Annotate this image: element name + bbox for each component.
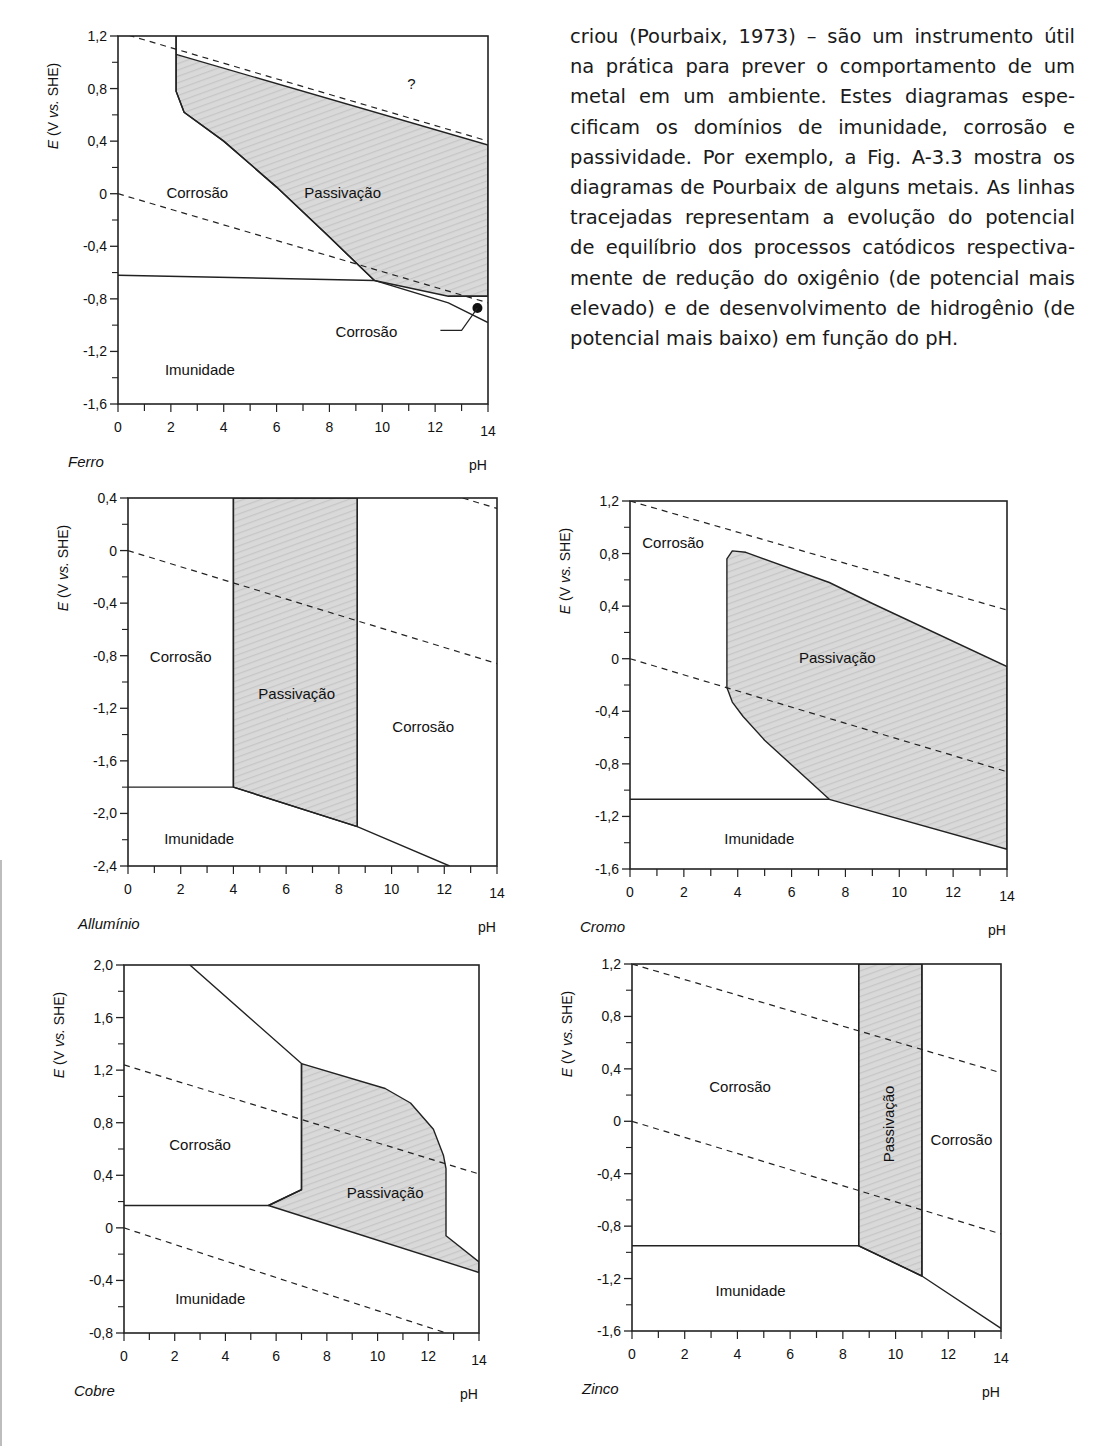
passivation-region bbox=[233, 498, 357, 827]
y-axis-title: E (V vs. SHE) bbox=[51, 992, 67, 1078]
y-tick-label: -1,6 bbox=[93, 753, 117, 769]
x-tick-label: 4 bbox=[230, 881, 238, 897]
y-axis-title: E (V vs. SHE) bbox=[557, 528, 573, 614]
metal-name-label: Allumínio bbox=[77, 915, 140, 932]
y-tick-label: 1,2 bbox=[602, 956, 622, 972]
x-tick-label: 10 bbox=[374, 419, 390, 435]
x-tick-label: 10 bbox=[370, 1348, 386, 1364]
boundary-line bbox=[632, 1246, 1001, 1329]
region-label: Corrosão bbox=[169, 1136, 231, 1153]
x-tick-label: 6 bbox=[282, 881, 290, 897]
x-tick-label: 0 bbox=[114, 419, 122, 435]
y-tick-label: -0,8 bbox=[93, 648, 117, 664]
x-tick-label: 12 bbox=[945, 884, 961, 900]
y-tick-label: 0,8 bbox=[600, 546, 620, 562]
region-label: Corrosão bbox=[931, 1131, 993, 1148]
region-label: Corrosão bbox=[709, 1078, 771, 1095]
y-tick-label: 0 bbox=[613, 1113, 621, 1129]
y-tick-label: 1,2 bbox=[600, 493, 620, 509]
y-tick-label: -0,4 bbox=[93, 595, 117, 611]
passivation-region bbox=[269, 1064, 480, 1273]
y-tick-label: -1,6 bbox=[83, 396, 107, 412]
y-tick-label: 0,4 bbox=[88, 133, 108, 149]
y-tick-label: -1,2 bbox=[93, 700, 117, 716]
y-tick-label: -0,8 bbox=[83, 291, 107, 307]
x-tick-label: 8 bbox=[335, 881, 343, 897]
x-tick-label: 12 bbox=[427, 419, 443, 435]
y-tick-label: 1,2 bbox=[88, 28, 108, 44]
x-tick-label: 2 bbox=[177, 881, 185, 897]
boundary-line bbox=[124, 965, 302, 1206]
y-axis-title: E (V vs. SHE) bbox=[55, 525, 71, 611]
region-label: Imunidade bbox=[175, 1290, 245, 1307]
y-tick-label: 0,4 bbox=[94, 1167, 114, 1183]
x-tick-label: 8 bbox=[842, 884, 850, 900]
y-tick-label: 0 bbox=[99, 186, 107, 202]
y-tick-label: -0,8 bbox=[595, 756, 619, 772]
x-tick-label: 0 bbox=[626, 884, 634, 900]
y-tick-label: -0,8 bbox=[89, 1325, 113, 1341]
x-tick-label: 4 bbox=[734, 884, 742, 900]
x-tick-label: 2 bbox=[681, 1346, 689, 1362]
x-tick-label: 12 bbox=[940, 1346, 956, 1362]
region-label: Imunidade bbox=[724, 830, 794, 847]
y-tick-label: 0,4 bbox=[98, 490, 118, 506]
y-tick-label: 0,8 bbox=[94, 1115, 114, 1131]
x-tick-label: 6 bbox=[786, 1346, 794, 1362]
x-tick-label: 10 bbox=[384, 881, 400, 897]
y-tick-label: 0,4 bbox=[600, 598, 620, 614]
x-tick-label: 6 bbox=[273, 419, 281, 435]
x-tick-label: 6 bbox=[272, 1348, 280, 1364]
y-tick-label: -0,8 bbox=[597, 1218, 621, 1234]
x-tick-label: 2 bbox=[167, 419, 175, 435]
x-tick-label: 10 bbox=[888, 1346, 904, 1362]
region-label: Imunidade bbox=[165, 361, 235, 378]
metal-name-label: Cromo bbox=[580, 918, 625, 935]
x-tick-label: 0 bbox=[124, 881, 132, 897]
y-tick-label: 0,8 bbox=[602, 1008, 622, 1024]
y-tick-label: -0,4 bbox=[89, 1272, 113, 1288]
region-label: Corrosão bbox=[336, 323, 398, 340]
y-tick-label: 2,0 bbox=[94, 957, 114, 973]
x-tick-label: 8 bbox=[323, 1348, 331, 1364]
y-tick-label: -1,6 bbox=[595, 861, 619, 877]
chart-ferro: 1,20,80,40-0,4-0,8-1,2-1,602468101214E (… bbox=[45, 28, 496, 473]
x-axis-title: pH bbox=[988, 922, 1006, 938]
x-tick-label: 0 bbox=[120, 1348, 128, 1364]
x-tick-label: 12 bbox=[436, 881, 452, 897]
chart-allumínio: 0,40-0,4-0,8-1,2-1,6-2,0-2,402468101214E… bbox=[55, 490, 505, 935]
x-axis-title: pH bbox=[469, 457, 487, 473]
region-label: Passivação bbox=[799, 649, 876, 666]
y-tick-label: 1,6 bbox=[94, 1010, 114, 1026]
marker-dot bbox=[472, 303, 482, 313]
x-tick-label: 6 bbox=[788, 884, 796, 900]
y-tick-label: -0,4 bbox=[597, 1166, 621, 1182]
x-tick-label: 4 bbox=[220, 419, 228, 435]
y-axis-title: E (V vs. SHE) bbox=[559, 991, 575, 1077]
region-label: Corrosão bbox=[642, 534, 704, 551]
x-tick-label: 2 bbox=[680, 884, 688, 900]
leader-line bbox=[440, 308, 477, 330]
metal-name-label: Ferro bbox=[68, 453, 104, 470]
x-tick-label: 14 bbox=[489, 885, 505, 901]
x-tick-label: 2 bbox=[171, 1348, 179, 1364]
chart-cobre: 2,01,61,20,80,40-0,4-0,802468101214E (V … bbox=[51, 957, 487, 1402]
x-tick-label: 4 bbox=[734, 1346, 742, 1362]
y-tick-label: -1,2 bbox=[597, 1271, 621, 1287]
y-tick-label: -0,4 bbox=[83, 238, 107, 254]
y-tick-label: -2,0 bbox=[93, 805, 117, 821]
y-tick-label: -1,6 bbox=[597, 1323, 621, 1339]
equilibrium-dashed-line bbox=[463, 498, 497, 509]
x-axis-title: pH bbox=[478, 919, 496, 935]
metal-name-label: Cobre bbox=[74, 1382, 115, 1399]
x-tick-label: 14 bbox=[480, 423, 496, 439]
region-label: Corrosão bbox=[392, 718, 454, 735]
boundary-line bbox=[118, 275, 374, 280]
chart-cromo: 1,20,80,40-0,4-0,8-1,2-1,602468101214E (… bbox=[557, 493, 1015, 938]
x-tick-label: 14 bbox=[471, 1352, 487, 1368]
y-tick-label: -0,4 bbox=[595, 703, 619, 719]
region-label: Imunidade bbox=[164, 830, 234, 847]
region-label: Passivação bbox=[880, 1086, 897, 1163]
y-tick-label: 0,8 bbox=[88, 81, 108, 97]
y-axis-title: E (V vs. SHE) bbox=[45, 63, 61, 149]
